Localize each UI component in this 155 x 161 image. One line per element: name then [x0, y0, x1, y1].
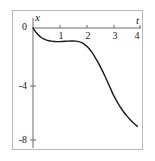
- xtick-label-4: 4: [131, 31, 143, 41]
- origin-label: 0: [22, 22, 27, 32]
- ytick-label-minus4: -4: [7, 81, 27, 91]
- figure-container: x t 0 1 2 3 4 -4 -8: [0, 0, 155, 161]
- xtick-label-3: 3: [109, 31, 121, 41]
- xtick-label-1: 1: [55, 31, 67, 41]
- data-curve: [33, 28, 137, 126]
- y-axis-label: x: [35, 12, 40, 23]
- ytick-label-minus8: -8: [7, 135, 27, 145]
- x-axis-label: t: [136, 15, 139, 26]
- xtick-label-2: 2: [82, 31, 94, 41]
